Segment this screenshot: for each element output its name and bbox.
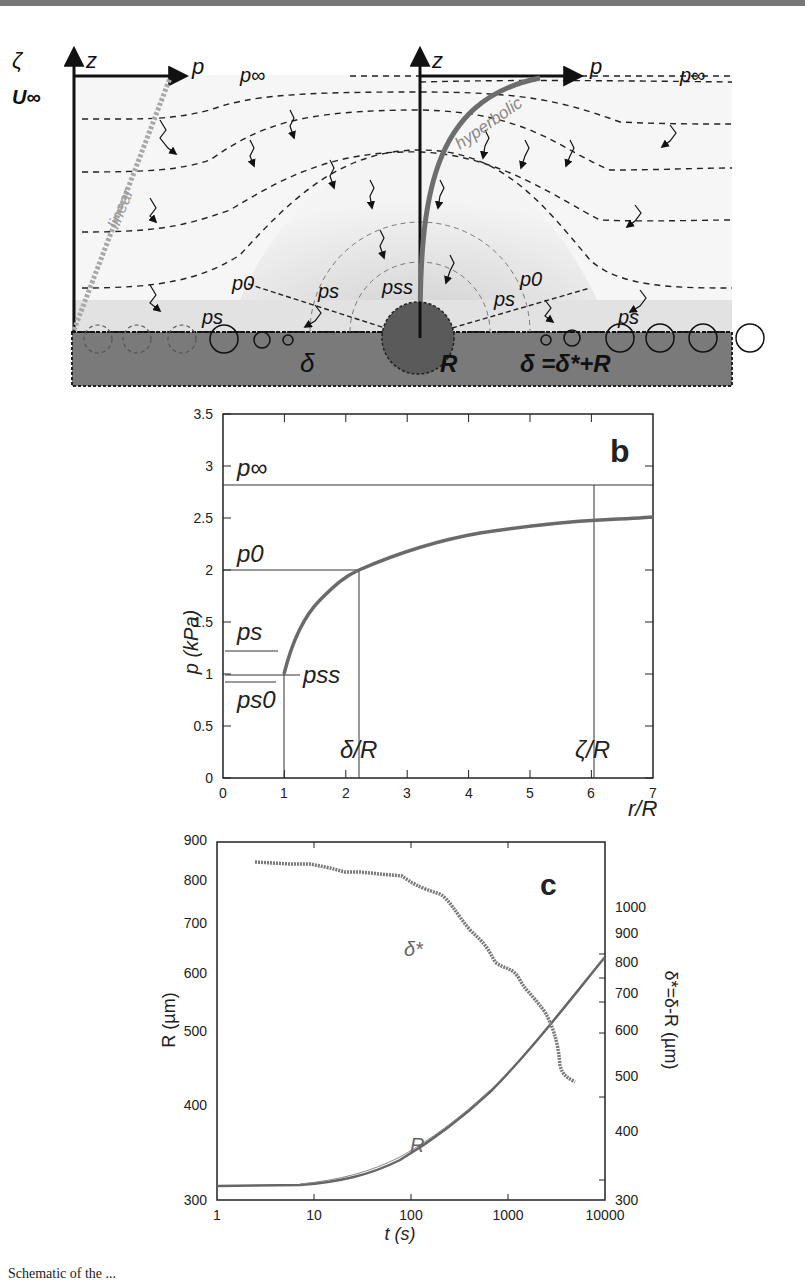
label-ps-surface-right: ps [617,306,639,328]
svg-text:400: 400 [615,1123,639,1139]
svg-text:0: 0 [219,785,227,801]
svg-text:3: 3 [403,785,411,801]
svg-text:400: 400 [184,1097,208,1113]
svg-text:6: 6 [587,785,595,801]
svg-text:1000: 1000 [615,899,646,915]
p-inf-left: p∞ [239,64,265,86]
svg-text:2: 2 [342,785,350,801]
svg-text:900: 900 [184,832,208,848]
svg-text:600: 600 [615,1022,639,1038]
label-pss: pss [302,661,340,688]
label-R-curve: R [410,1134,424,1156]
svg-text:3: 3 [205,458,213,474]
svg-text:1000: 1000 [492,1207,523,1223]
label-delta-eq: δ =δ*+R [520,350,611,377]
figure-caption: Schematic of the ... [8,1266,116,1282]
label-pss: pss [381,276,413,298]
svg-text:900: 900 [615,925,639,941]
label-ps: ps [236,618,262,645]
label-p-inf: p∞ [236,454,267,481]
svg-text:2.5: 2.5 [194,510,214,526]
svg-text:100: 100 [399,1207,423,1223]
zeta-label: ζ [12,48,24,73]
svg-text:2: 2 [205,562,213,578]
z-axis-label-left: z [85,48,97,73]
label-ps-surface-left: ps [201,306,223,328]
u-inf-label: U∞ [12,86,41,108]
label-ps0: ps0 [236,686,276,713]
svg-text:300: 300 [615,1192,639,1208]
svg-text:700: 700 [184,915,208,931]
p-inf-right: p∞ [679,64,705,86]
panel-a-schematic: ζ U∞ z p p∞ z p p∞ p0 ps pss p0 ps ps ps… [0,0,805,420]
pressure-curve [284,517,653,674]
x-axis-label: r/R [628,796,657,820]
z-axis-label-center: z [431,48,443,73]
label-ps-left: ps [317,280,339,302]
label-p0-left: p0 [231,272,254,294]
label-p0-right: p0 [519,268,542,290]
svg-text:10: 10 [306,1207,322,1223]
label-zeta-over-R: ζ/R [575,736,610,763]
svg-text:0: 0 [205,770,213,786]
y-axis-label: p (kPa) [180,610,202,675]
y-axis-label-right-c: δ*=δ-R (µm) [661,971,681,1070]
label-delta: δ [300,348,315,378]
svg-text:800: 800 [615,954,639,970]
svg-text:0.5: 0.5 [194,718,214,734]
svg-text:1: 1 [205,666,213,682]
delta-star-series [255,862,575,1082]
label-R: R [440,350,458,377]
svg-text:600: 600 [184,965,208,981]
p-axis-label-center: p [589,54,602,79]
svg-text:4: 4 [465,785,473,801]
svg-text:1: 1 [213,1207,221,1223]
svg-text:300: 300 [184,1192,208,1208]
svg-text:800: 800 [184,872,208,888]
svg-text:10000: 10000 [586,1207,625,1223]
panel-b-chart: 0 0.5 1 1.5 2 2.5 3 3.5 0 1 2 3 4 5 6 7 … [0,400,805,820]
svg-text:500: 500 [184,1023,208,1039]
svg-text:3.5: 3.5 [194,406,214,422]
panel-c-chart: 300 400 500 600 700 800 900 300 400 500 … [0,820,805,1260]
svg-text:5: 5 [526,785,534,801]
label-ps-right: ps [493,288,515,310]
label-p0: p0 [236,540,264,567]
p-axis-label-left: p [191,54,204,79]
panel-c-label: c [540,868,557,901]
svg-text:700: 700 [615,985,639,1001]
y-axis-label-left-c: R (µm) [159,992,179,1047]
label-delta-star: δ* [404,938,424,960]
svg-text:500: 500 [615,1068,639,1084]
label-delta-over-R: δ/R [340,736,377,763]
panel-b-label: b [610,433,630,469]
x-axis-label-c: t (s) [385,1224,416,1244]
svg-text:1: 1 [280,785,288,801]
